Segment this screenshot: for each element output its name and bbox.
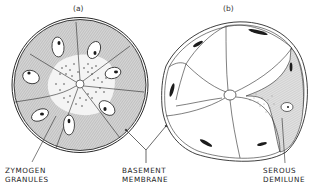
label-zymogen-line2: GRANULES [5, 175, 49, 184]
mucous-acinus-b [162, 22, 308, 163]
label-zymogen-line1: ZYMOGEN [5, 166, 49, 175]
panel-label-b: (b) [223, 4, 234, 13]
label-zymogen-granules: ZYMOGEN GRANULES [5, 166, 49, 184]
basement-membrane-pointer [125, 125, 167, 163]
serous-acinus-a [12, 18, 148, 163]
label-serous-line1: SEROUS [263, 166, 305, 175]
panel-label-a: (a) [73, 4, 83, 13]
label-basement-line1: BASEMENT [122, 166, 168, 175]
label-serous-line2: DEMILUNE [263, 175, 305, 184]
label-basement-membrane: BASEMENT MEMBRANE [122, 166, 168, 184]
label-basement-line2: MEMBRANE [122, 175, 168, 184]
label-serous-demilune: SEROUS DEMILUNE [263, 166, 305, 184]
acini-diagram [0, 0, 315, 189]
